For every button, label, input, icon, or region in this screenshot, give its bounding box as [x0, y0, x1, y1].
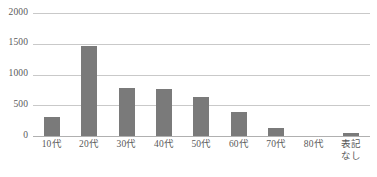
- x-axis-labels: 10代 20代 30代 40代 50代 60代 70代 80代 表記 なし: [33, 139, 370, 177]
- x-axis-label-80dai: 80代: [295, 139, 332, 151]
- x-axis-label-70dai: 70代: [258, 139, 295, 151]
- bar-slot: [145, 13, 182, 136]
- y-axis-tick-label: 500: [13, 100, 28, 110]
- bar-50dai: [193, 97, 209, 136]
- bar-20dai: [81, 46, 97, 136]
- bar-40dai: [156, 89, 172, 136]
- x-axis-label-hyoukinashi: 表記 なし: [333, 139, 370, 162]
- axis-baseline: [33, 136, 370, 137]
- bar-slot: [258, 13, 295, 136]
- x-axis-label-60dai: 60代: [220, 139, 257, 151]
- x-axis-label-20dai: 20代: [70, 139, 107, 151]
- bar-slot: [33, 13, 70, 136]
- bar-slot: [295, 13, 332, 136]
- plot-area: [33, 13, 370, 136]
- bar-group: [33, 13, 370, 136]
- bar-hyoukinashi: [343, 133, 359, 136]
- bar-30dai: [119, 88, 135, 136]
- y-axis-tick-label: 1500: [9, 38, 28, 48]
- bar-slot: [70, 13, 107, 136]
- y-axis-labels: 2000 1500 1000 500 0: [0, 0, 33, 177]
- y-axis-tick-label: 2000: [9, 8, 28, 18]
- bar-slot: [220, 13, 257, 136]
- y-axis-tick-label: 1000: [9, 69, 28, 79]
- x-axis-label-30dai: 30代: [108, 139, 145, 151]
- y-axis-tick-label: 0: [23, 131, 28, 141]
- bar-slot: [108, 13, 145, 136]
- bar-slot: [333, 13, 370, 136]
- bar-slot: [183, 13, 220, 136]
- bar-chart: 2000 1500 1000 500 0: [0, 0, 377, 177]
- x-axis-label-40dai: 40代: [145, 139, 182, 151]
- x-axis-label-10dai: 10代: [33, 139, 70, 151]
- bar-60dai: [231, 112, 247, 136]
- bar-10dai: [44, 117, 60, 136]
- x-axis-label-50dai: 50代: [183, 139, 220, 151]
- bar-70dai: [268, 128, 284, 136]
